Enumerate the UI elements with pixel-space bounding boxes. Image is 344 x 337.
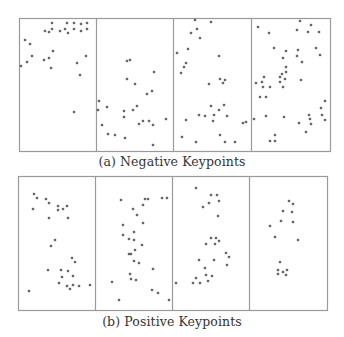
panel-frame (20, 19, 331, 152)
subfigure-negative-keypoints (20, 18, 331, 152)
subfigure-positive-keypoints (19, 176, 328, 311)
caption-positive-keypoints: (b) Positive Keypoints (0, 315, 344, 329)
caption-negative-keypoints: (a) Negative Keypoints (0, 155, 344, 169)
